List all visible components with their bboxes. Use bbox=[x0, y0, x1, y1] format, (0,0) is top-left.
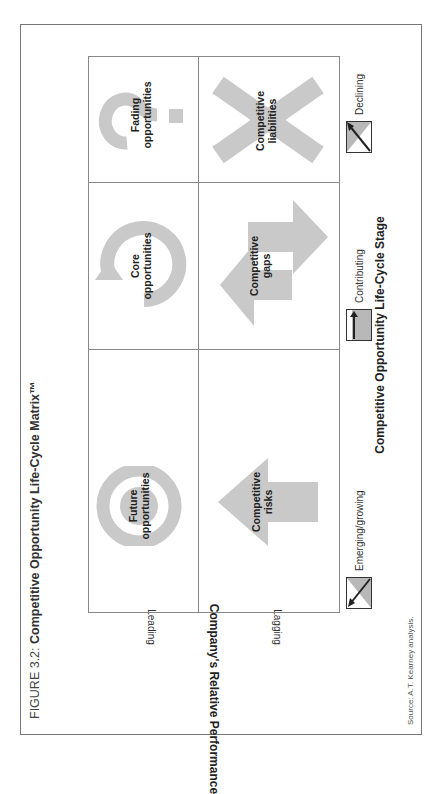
cell-label: Core bbox=[129, 232, 141, 299]
cell-label: Fading bbox=[129, 81, 141, 148]
x-axis-title: Competitive Opportunity Life-Cycle Stage bbox=[373, 216, 387, 453]
cell-fading-opportunities: Fading opportunities bbox=[89, 57, 198, 183]
source-note: Source: A.T. Kearney analysis. bbox=[406, 617, 415, 726]
cell-core-opportunities: Core opportunities bbox=[89, 183, 198, 350]
cell-label: Competitive bbox=[254, 91, 266, 151]
cell-label: liabilities bbox=[266, 91, 278, 151]
y-axis-title: Company's Relative Performance bbox=[207, 604, 221, 794]
y-tick-lagging: Lagging bbox=[272, 609, 283, 645]
cell-label: Future bbox=[127, 472, 139, 539]
y-tick-leading: Leading bbox=[146, 609, 157, 645]
legend-label: Emerging/growing bbox=[354, 490, 365, 571]
legend-label: Contributing bbox=[354, 249, 365, 303]
cell-label: gaps bbox=[260, 236, 272, 296]
figure-number: FIGURE 3.2: bbox=[28, 644, 42, 719]
diagonal-arrow-icon bbox=[346, 121, 372, 153]
figure-title: FIGURE 3.2: Competitive Opportunity Life… bbox=[28, 381, 42, 719]
legend-contributing: Contributing bbox=[346, 249, 372, 341]
cell-label: opportunities bbox=[141, 232, 153, 299]
cell-label: Competitive bbox=[250, 472, 262, 532]
cell-label: risks bbox=[262, 472, 274, 532]
figure-title-text: Competitive Opportunity Life-Cycle Matri… bbox=[28, 381, 42, 644]
cell-label: Competitive bbox=[248, 236, 260, 296]
cell-label: opportunities bbox=[139, 472, 151, 539]
matrix-grid: Future opportunities Core opportunities … bbox=[88, 56, 340, 613]
rising-arrow-icon bbox=[346, 577, 372, 609]
cell-competitive-liabilities: Competitive liabilities bbox=[198, 57, 339, 183]
legend-emerging: Emerging/growing bbox=[346, 490, 372, 609]
vertical-arrow-icon bbox=[346, 309, 372, 341]
legend-declining: Declining bbox=[346, 74, 372, 153]
cell-competitive-gaps: Competitive gaps bbox=[198, 183, 339, 350]
cell-label: opportunities bbox=[141, 81, 153, 148]
legend-label: Declining bbox=[354, 74, 365, 115]
cell-future-opportunities: Future opportunities bbox=[89, 350, 198, 612]
cell-competitive-risks: Competitive risks bbox=[198, 350, 339, 612]
